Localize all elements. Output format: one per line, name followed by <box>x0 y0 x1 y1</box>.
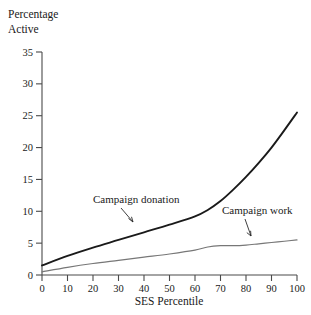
x-tick-label: 60 <box>190 283 201 294</box>
series-label-campaign-work: Campaign work <box>222 204 293 216</box>
series-label-campaign-donation: Campaign donation <box>93 193 180 205</box>
x-tick-label: 50 <box>164 283 175 294</box>
line-chart: Percentage Active 05101520253035 0102030… <box>0 0 311 315</box>
series-line-campaign-work <box>42 240 297 272</box>
x-tick-label: 20 <box>88 283 99 294</box>
y-tick-label: 20 <box>23 142 34 153</box>
campaign-work-arrowhead <box>247 231 251 236</box>
x-tick-label: 70 <box>215 283 226 294</box>
chart-title-line-2: Active <box>8 23 39 35</box>
x-axis-ticks: 0102030405060708090100 <box>39 275 305 294</box>
chart-title-line-1: Percentage <box>8 8 58 21</box>
x-tick-label: 100 <box>289 283 305 294</box>
y-tick-label: 15 <box>23 174 34 185</box>
x-tick-label: 90 <box>266 283 277 294</box>
y-tick-label: 30 <box>23 78 34 89</box>
x-tick-label: 0 <box>39 283 44 294</box>
chart-container: Percentage Active 05101520253035 0102030… <box>0 0 311 315</box>
y-tick-label: 10 <box>23 206 34 217</box>
x-tick-label: 80 <box>241 283 252 294</box>
y-tick-label: 25 <box>23 110 34 121</box>
x-tick-label: 30 <box>113 283 124 294</box>
y-axis-ticks: 05101520253035 <box>23 47 43 281</box>
x-tick-label: 10 <box>62 283 73 294</box>
y-tick-label: 35 <box>23 47 34 58</box>
x-axis-title: SES Percentile <box>135 295 204 307</box>
y-tick-label: 0 <box>28 270 33 281</box>
y-tick-label: 5 <box>28 238 33 249</box>
series-line-campaign-donation <box>42 113 297 266</box>
x-tick-label: 40 <box>139 283 150 294</box>
campaign-donation-leader-line <box>121 208 133 222</box>
